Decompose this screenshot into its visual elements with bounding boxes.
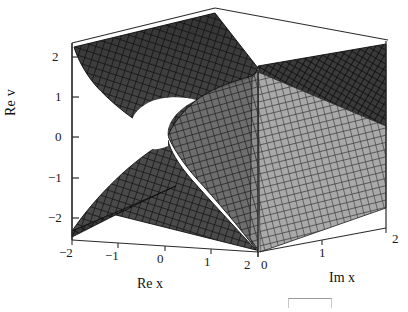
axis-title-re-v: Re v — [4, 89, 18, 116]
axis-title-re-x: Re x — [137, 277, 163, 291]
axis-re-v-ticks — [72, 57, 79, 218]
tick-label-im-x-2: 2 — [392, 232, 399, 245]
axis-title-im-x: Im x — [329, 271, 355, 285]
tick-label-re-v-m2: −2 — [48, 211, 62, 224]
tick-label-im-x-0: 0 — [261, 258, 268, 271]
figure-root: 2 1 0 −1 −2 −2 −1 0 1 2 0 1 2 Re v Re x … — [0, 0, 408, 312]
tick-label-re-x-m1: −1 — [105, 249, 119, 262]
tick-label-re-x-m2: −2 — [59, 246, 73, 259]
tick-label-re-x-1: 1 — [204, 255, 211, 268]
tick-label-re-v-0: 0 — [55, 130, 62, 143]
scan-artifact — [288, 298, 332, 308]
tick-label-re-x-2: 2 — [244, 258, 251, 271]
tick-label-re-v-2: 2 — [52, 50, 59, 63]
riemann-surface — [72, 13, 386, 252]
tick-label-re-v-1: 1 — [55, 90, 62, 103]
tick-label-im-x-1: 1 — [319, 246, 326, 259]
tick-label-re-v-m1: −1 — [48, 171, 62, 184]
tick-label-re-x-0: 0 — [157, 252, 164, 265]
